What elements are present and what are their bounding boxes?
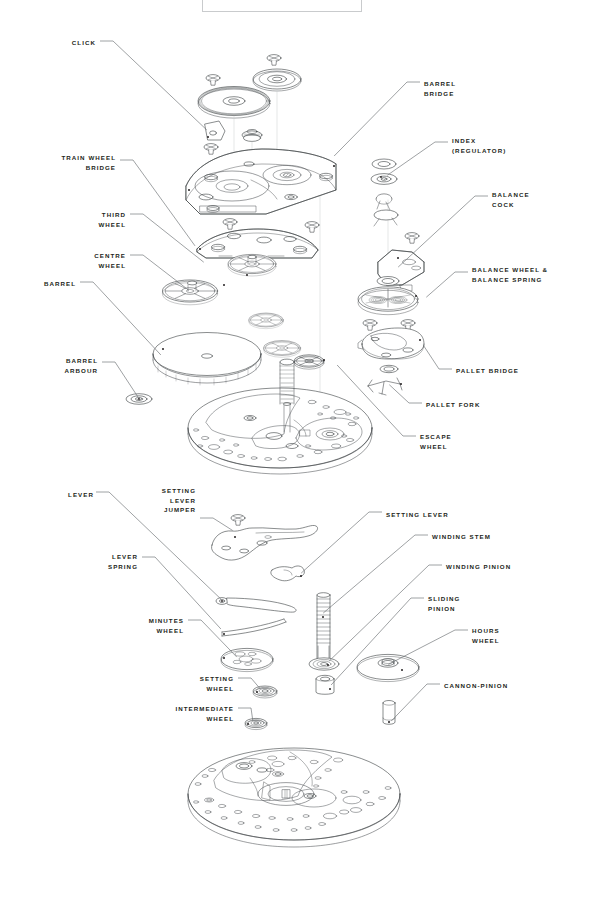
label-train-wheel-bridge: TRAIN WHEEL BRIDGE <box>26 153 116 172</box>
label-lever: LEVER <box>38 490 94 500</box>
label-cannon-pinion: CANNON-PINION <box>444 681 568 691</box>
label-pallet-bridge: PALLET BRIDGE <box>456 366 576 376</box>
label-winding-stem: WINDING STEM <box>432 532 552 542</box>
leader-winding-pinion <box>329 565 442 661</box>
label-intermediate-wheel: INTERMEDIATE WHEEL <box>132 704 234 723</box>
leader-barrel-bridge <box>334 82 420 156</box>
leader-pallet-bridge <box>423 345 452 369</box>
label-third-wheel: THIRD WHEEL <box>56 210 126 229</box>
leader-cannon-pinion <box>391 684 440 721</box>
label-centre-wheel: CENTRE WHEEL <box>50 251 126 270</box>
label-setting-lever: SETTING LEVER <box>386 510 506 520</box>
label-balance-cock: BALANCE COCK <box>492 190 592 209</box>
label-sliding-pinion: SLIDING PINION <box>428 594 518 613</box>
label-setting-lever-jumper: SETTING LEVER JUMPER <box>128 486 196 515</box>
label-barrel-bridge: BARREL BRIDGE <box>424 79 544 98</box>
label-click: CLICK <box>26 38 96 48</box>
leader-index <box>387 142 448 175</box>
leader-setting-lever <box>301 512 382 573</box>
label-escape-wheel: ESCAPE WHEEL <box>420 432 510 451</box>
label-balance-wheel-spring: BALANCE WHEEL & BALANCE SPRING <box>472 265 594 284</box>
label-barrel-arbour: BARREL ARBOUR <box>22 356 98 375</box>
label-hours-wheel: HOURS WHEEL <box>472 626 562 645</box>
label-winding-pinion: WINDING PINION <box>446 562 572 572</box>
label-index-regulator: INDEX (REGULATOR) <box>452 136 582 155</box>
leader-balance-wheel <box>426 272 468 297</box>
label-lever-spring: LEVER SPRING <box>70 552 138 571</box>
leader-winding-stem <box>323 535 428 613</box>
label-barrel: BARREL <box>20 279 76 289</box>
label-pallet-fork: PALLET FORK <box>426 400 536 410</box>
label-minutes-wheel: MINUTES WHEEL <box>112 616 184 635</box>
leader-click <box>100 41 207 130</box>
label-setting-wheel: SETTING WHEEL <box>162 674 234 693</box>
leader-pallet-fork <box>389 385 422 403</box>
leader-barrel-arbour <box>102 362 138 397</box>
leader-train-wheel-bridge <box>120 160 195 246</box>
diagram-canvas: CLICKTRAIN WHEEL BRIDGETHIRD WHEELCENTRE… <box>0 0 595 897</box>
leader-slj <box>200 518 233 530</box>
leader-barrel <box>80 282 161 355</box>
